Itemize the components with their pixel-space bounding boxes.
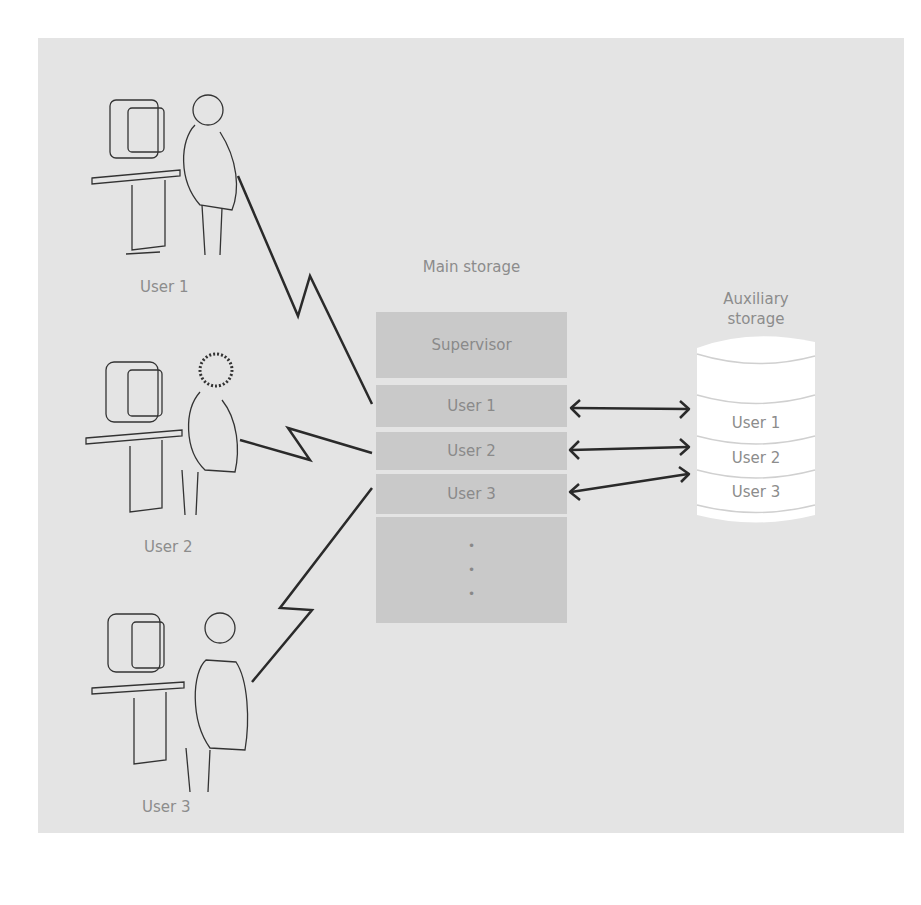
- arrow-user-1: [571, 400, 689, 418]
- auxiliary-storage-title-line2: storage: [697, 310, 815, 328]
- main-storage-user-3: User 3: [376, 474, 567, 514]
- main-storage-user-2: User 2: [376, 432, 567, 470]
- user-2-terminal-icon: [86, 354, 237, 515]
- communication-links: [238, 176, 372, 682]
- main-storage-title: Main storage: [376, 258, 567, 276]
- auxiliary-user-2: User 2: [697, 449, 815, 467]
- user-1-terminal-icon: [92, 95, 236, 255]
- main-storage-user-1: User 1: [376, 385, 567, 427]
- auxiliary-user-3: User 3: [697, 483, 815, 501]
- arrow-user-2: [570, 439, 689, 459]
- link-user-1: [238, 176, 372, 404]
- user-2-label: User 2: [144, 538, 193, 556]
- main-storage-supervisor: Supervisor: [376, 312, 567, 378]
- user-3-label: User 3: [142, 798, 191, 816]
- auxiliary-storage-title-line1: Auxiliary: [697, 290, 815, 308]
- main-storage-free-space: • • •: [376, 517, 567, 623]
- ellipsis-dot: •: [468, 587, 475, 601]
- ellipsis-dot: •: [468, 539, 475, 553]
- transfer-arrows: [570, 400, 689, 500]
- user-3-terminal-icon: [92, 613, 248, 792]
- ellipsis-dot: •: [468, 563, 475, 577]
- user-1-label: User 1: [140, 278, 189, 296]
- auxiliary-user-1: User 1: [697, 414, 815, 432]
- link-user-3: [252, 488, 372, 682]
- arrow-user-3: [570, 467, 689, 500]
- link-user-2: [240, 428, 372, 460]
